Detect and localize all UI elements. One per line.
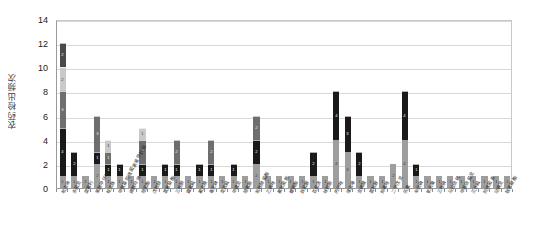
- bar-stack[interactable]: 44: [333, 91, 339, 188]
- x-axis-tick: [341, 189, 342, 192]
- bar-segment: 4: [402, 91, 408, 139]
- bar-stack[interactable]: 44: [402, 91, 408, 188]
- bar-stack[interactable]: 33: [345, 116, 351, 188]
- bar-segment: 1: [117, 164, 123, 176]
- bar-segment-label: 4: [404, 114, 406, 118]
- bar-chart: 农药检出频次 02468101214 143221212131111111112…: [0, 0, 535, 243]
- bar-segment-label: 1: [415, 168, 417, 172]
- bar-segment-label: 1: [119, 168, 121, 172]
- bar-segment: 2: [253, 116, 259, 140]
- bar-segment-label: 2: [255, 150, 257, 154]
- bar-segment: 1: [105, 152, 111, 164]
- x-axis-tick: [227, 189, 228, 192]
- bar-segment-label: 1: [369, 180, 371, 184]
- bar-segment-label: 4: [335, 114, 337, 118]
- bar-segment: 1: [139, 128, 145, 140]
- bar-segment: 3: [94, 116, 100, 152]
- bar-segment-label: 1: [141, 132, 143, 136]
- bar-segment: 2: [174, 140, 180, 164]
- bar-segment-label: 1: [141, 180, 143, 184]
- bar-segment-label: 1: [198, 180, 200, 184]
- y-axis-tick-label: 10: [38, 63, 48, 73]
- bar-segment: 2: [356, 152, 362, 176]
- bar-segment: 2: [310, 152, 316, 176]
- x-axis-tick: [512, 189, 513, 192]
- x-axis-tick-labels: 吡虫啉多菌灵腐霉利苯醚甲环唑啶虫脒甲氨基阿维菌素苯甲酸盐烯酰吗啉嘧菌酯戊唑醇氯氰…: [56, 193, 512, 243]
- bar-segment: 1: [162, 164, 168, 176]
- bar-segment: 1: [139, 164, 145, 176]
- bar-segment-label: 4: [62, 150, 64, 154]
- x-axis-tick: [170, 189, 171, 192]
- y-axis-tick-label: 2: [43, 160, 48, 170]
- bar-segment-label: 2: [255, 174, 257, 178]
- bar-segment-label: 3: [62, 108, 64, 112]
- bar-segment: 3: [345, 116, 351, 152]
- bar-stack[interactable]: 14322: [60, 43, 66, 188]
- bar-segment: 2: [253, 140, 259, 164]
- bar-segment-label: 2: [210, 150, 212, 154]
- x-axis-tick: [398, 189, 399, 192]
- bar-segment: 1: [94, 152, 100, 164]
- bar-segment-label: 3: [347, 132, 349, 136]
- y-axis-title-text: 农药检出频次: [7, 72, 19, 129]
- bar-segment-label: 1: [141, 168, 143, 172]
- bar-segment: 3: [60, 91, 66, 127]
- bar-stack[interactable]: 213: [94, 116, 100, 188]
- bar-segment-label: 1: [96, 156, 98, 160]
- y-axis-tick-label: 14: [38, 15, 48, 25]
- bar-segment-label: 1: [107, 144, 109, 148]
- bar-segment: 1: [105, 140, 111, 152]
- x-axis-tick: [455, 189, 456, 192]
- bar-segment-label: 2: [96, 174, 98, 178]
- bar-segment-label: 1: [233, 168, 235, 172]
- plot-area: 1432212121311111111121111112111112111122…: [56, 20, 512, 189]
- bar-segment: 1: [196, 164, 202, 176]
- y-axis-title: 农药检出频次: [2, 0, 24, 200]
- bar-segment-label: 3: [96, 132, 98, 136]
- bar-segment: 2: [60, 67, 66, 91]
- bar-segment-label: 1: [210, 168, 212, 172]
- bar-segment-label: 1: [483, 180, 485, 184]
- bar-segment-label: 1: [107, 156, 109, 160]
- y-axis-tick-labels: 02468101214: [24, 20, 52, 189]
- bar-segment: 1: [231, 164, 237, 176]
- bars-layer: 1432212121311111111121111112111112111122…: [57, 21, 511, 188]
- y-axis-tick-label: 0: [43, 184, 48, 194]
- bar-segment: 2: [60, 43, 66, 67]
- x-axis-tick: [113, 189, 114, 192]
- bar-segment: 1: [413, 164, 419, 176]
- bar-segment-label: 1: [176, 168, 178, 172]
- bar-segment: 4: [333, 91, 339, 139]
- bar-segment: 1: [208, 164, 214, 176]
- bar-segment-label: 3: [347, 168, 349, 172]
- bar-segment-label: 1: [164, 168, 166, 172]
- bar-stack[interactable]: 222: [253, 116, 259, 188]
- bar-segment-label: 2: [62, 54, 64, 58]
- x-axis-tick: [284, 189, 285, 192]
- y-axis-tick-label: 12: [38, 39, 48, 49]
- bar-segment: 1: [174, 164, 180, 176]
- x-axis-tick: [56, 189, 57, 192]
- y-axis-tick-label: 4: [43, 136, 48, 146]
- bar-segment-label: 4: [335, 162, 337, 166]
- bar-segment-label: 1: [84, 180, 86, 184]
- bar-segment-label: 4: [404, 162, 406, 166]
- bar-segment: 2: [71, 152, 77, 176]
- y-axis-tick-label: 6: [43, 112, 48, 122]
- bar-segment-label: 2: [392, 174, 394, 178]
- bar-segment-label: 2: [73, 162, 75, 166]
- bar-segment: 2: [208, 140, 214, 164]
- bar-segment-label: 2: [358, 162, 360, 166]
- bar-segment-label: 1: [312, 180, 314, 184]
- bar-segment-label: 2: [255, 126, 257, 130]
- bar-segment: 4: [60, 128, 66, 176]
- bar-segment-label: 2: [312, 162, 314, 166]
- bar-segment-label: 1: [198, 168, 200, 172]
- bar-segment-label: 2: [176, 150, 178, 154]
- bar-segment-label: 1: [426, 180, 428, 184]
- bar-segment-label: 2: [62, 78, 64, 82]
- y-axis-tick-label: 8: [43, 87, 48, 97]
